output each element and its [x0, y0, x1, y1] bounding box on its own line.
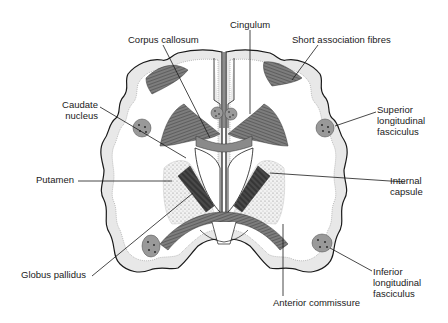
- label-superior-longitudinal-fasciculus: Superior longitudinal fasciculus: [377, 104, 425, 137]
- label-globus-pallidus: Globus pallidus: [21, 269, 86, 280]
- superior-longitudinal-fasciculus-right: [316, 119, 334, 137]
- label-inferior-longitudinal-fasciculus: Inferior longitudinal fasciculus: [373, 266, 421, 299]
- label-cingulum: Cingulum: [230, 19, 270, 30]
- third-ventricle: [212, 222, 236, 244]
- label-putamen: Putamen: [36, 174, 74, 185]
- label-caudate-nucleus: Caudate nucleus: [60, 99, 98, 121]
- label-internal-capsule: Internal capsule: [390, 175, 423, 197]
- cingulum-left: [211, 107, 223, 119]
- inferior-longitudinal-fasciculus-right: [312, 234, 332, 252]
- label-anterior-commissure: Anterior commissure: [273, 297, 360, 308]
- label-short-association-fibres: Short association fibres: [292, 34, 391, 45]
- inferior-longitudinal-fasciculus-left: [142, 235, 160, 257]
- label-corpus-callosum: Corpus callosum: [128, 34, 199, 45]
- cingulum-right: [225, 108, 237, 120]
- brain-coronal-diagram: Corpus callosum Cingulum Short associati…: [0, 0, 448, 323]
